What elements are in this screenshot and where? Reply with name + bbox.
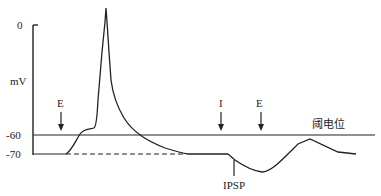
diagram-canvas: 0 mV -60 -70 阈电位 IPSP E I E [0,0,381,196]
stimulus-i-label: I [219,97,223,109]
stimulus-e1: E [57,97,64,131]
arrow-head-icon [218,124,224,131]
threshold-label: 阈电位 [312,117,345,131]
action-potential-trace [66,8,228,154]
membrane-potential-diagram: 0 mV -60 -70 阈电位 IPSP E I E [0,0,381,196]
arrow-head-icon [58,124,64,131]
stimulus-e2-label: E [256,97,263,109]
y-axis: 0 mV -60 -70 [6,19,38,160]
ipsp-label: IPSP [223,179,245,191]
tick-label-minus-60: -60 [6,129,21,141]
stimulus-e1-label: E [57,97,64,109]
stimulus-i: I [218,97,224,131]
y-axis-unit-label: mV [10,75,27,87]
tick-label-minus-70: -70 [6,148,21,160]
stimulus-e2: E [256,97,264,131]
ipsp-epsp-trace [228,139,356,172]
tick-label-0: 0 [17,19,23,31]
arrow-head-icon [258,124,264,131]
